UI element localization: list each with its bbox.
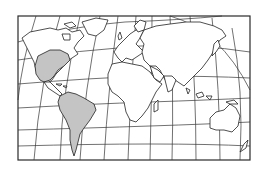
- map-svg: [0, 0, 263, 173]
- world-map: World map with highlighted regions: [0, 0, 263, 173]
